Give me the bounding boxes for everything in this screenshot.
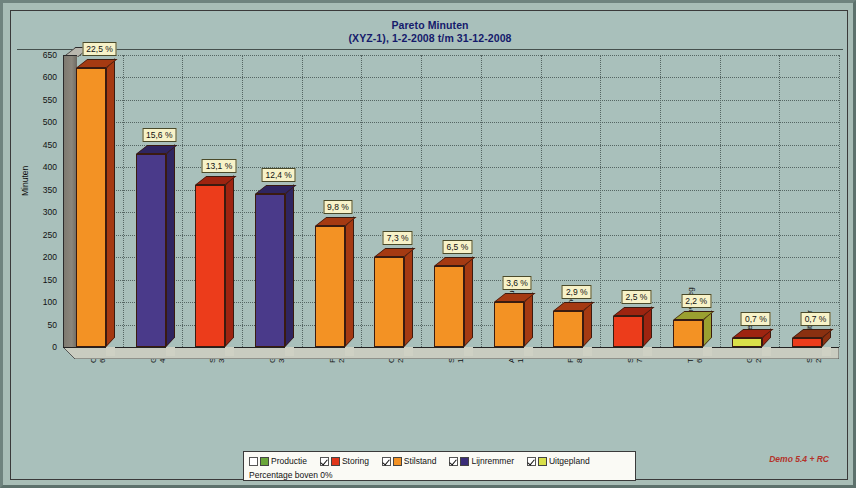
gridline-vertical: [361, 55, 362, 347]
legend-checkbox[interactable]: [249, 457, 258, 466]
gridline-vertical: [481, 55, 482, 347]
legend-color-swatch: [393, 457, 402, 466]
y-axis-tick-label: 200: [43, 252, 57, 262]
plot-area: 0501001502002503003504004505005506006502…: [63, 55, 839, 347]
y-axis-tick-label: 350: [43, 185, 57, 195]
gridline-vertical: [779, 55, 780, 347]
gridline-horizontal: [63, 190, 839, 191]
gridline-vertical: [541, 55, 542, 347]
bar-shadow: [762, 347, 771, 356]
gridline-horizontal: [63, 145, 839, 146]
y-axis-tick-label: 100: [43, 297, 57, 307]
bar-shadow: [225, 347, 234, 356]
legend-color-swatch: [538, 457, 547, 466]
legend-note: Percentage boven 0%: [249, 470, 630, 480]
legend-label: Uitgepland: [549, 456, 590, 466]
bar-shadow: [106, 347, 115, 356]
y-axis-title: Minuten: [20, 166, 30, 196]
gridline-horizontal: [63, 235, 839, 236]
bar[interactable]: [673, 320, 703, 347]
bar[interactable]: [792, 338, 822, 347]
y-axis-tick-label: 600: [43, 72, 57, 82]
bar-front-face: [613, 316, 643, 347]
bar-value-label: 9,8 %: [323, 200, 353, 214]
gridline-horizontal: [63, 77, 839, 78]
bar[interactable]: [434, 266, 464, 347]
bar-front-face: [434, 266, 464, 347]
gridline-horizontal: [63, 55, 839, 56]
gridline-vertical: [839, 55, 840, 347]
bar[interactable]: [613, 316, 643, 347]
bar[interactable]: [255, 194, 285, 347]
gridline-vertical: [720, 55, 721, 347]
y-axis-tick-label: 450: [43, 140, 57, 150]
bar-value-label: 15,6 %: [142, 128, 176, 142]
bar-side-face: [345, 216, 354, 347]
legend-color-swatch: [460, 457, 469, 466]
gridline-vertical: [302, 55, 303, 347]
bar-front-face: [195, 185, 225, 347]
bar-side-face: [285, 185, 294, 347]
gridline-vertical: [242, 55, 243, 347]
bar-value-label: 2,2 %: [681, 294, 711, 308]
bar-side-face: [404, 248, 413, 347]
bar-value-label: 0,7 %: [741, 312, 771, 326]
bar-front-face: [76, 68, 106, 347]
y-axis-tick-label: 650: [43, 50, 57, 60]
bar-value-label: 12,4 %: [261, 168, 295, 182]
bar-shadow: [703, 347, 712, 356]
legend-color-swatch: [260, 457, 269, 466]
y-axis-tick-label: 400: [43, 162, 57, 172]
legend-item-storing[interactable]: Storing: [320, 456, 369, 466]
legend-item-lijnremmer[interactable]: Lijnremmer: [449, 456, 514, 466]
bar-shadow: [464, 347, 473, 356]
bar-front-face: [374, 257, 404, 347]
legend-checkbox[interactable]: [320, 457, 329, 466]
bar[interactable]: [553, 311, 583, 347]
legend-label: Stilstand: [404, 456, 437, 466]
bar-value-label: 13,1 %: [202, 159, 236, 173]
bar[interactable]: [732, 338, 762, 347]
legend-checkbox[interactable]: [382, 457, 391, 466]
bar[interactable]: [315, 226, 345, 347]
bar-value-label: 3,6 %: [502, 276, 532, 290]
y-axis-tick-label: 0: [52, 342, 57, 352]
x-axis-baseline: [63, 347, 839, 348]
bar-shadow: [583, 347, 592, 356]
bar-value-label: 6,5 %: [443, 240, 473, 254]
bar-front-face: [315, 226, 345, 347]
legend-color-swatch: [331, 457, 340, 466]
legend-checkbox[interactable]: [527, 457, 536, 466]
demo-watermark: Demo 5.4 + RC: [769, 454, 829, 464]
bar[interactable]: [136, 154, 166, 347]
bar[interactable]: [76, 68, 106, 347]
bar[interactable]: [195, 185, 225, 347]
bar-shadow: [166, 347, 175, 356]
bar-front-face: [673, 320, 703, 347]
chart-floor-shape: [63, 347, 839, 359]
chart-title-line1: Pareto Minuten: [11, 19, 849, 32]
chart-floor: [63, 347, 839, 359]
legend-item-stilstand[interactable]: Stilstand: [382, 456, 437, 466]
bar-value-label: 0,7 %: [801, 312, 831, 326]
bar-side-face: [166, 144, 175, 347]
legend-label: Lijnremmer: [471, 456, 514, 466]
gridline-horizontal: [63, 212, 839, 213]
legend-label: Storing: [342, 456, 369, 466]
bar-value-label: 2,5 %: [622, 290, 652, 304]
gridline-vertical: [421, 55, 422, 347]
bar[interactable]: [494, 302, 524, 347]
bar-value-label: 2,9 %: [562, 285, 592, 299]
bar[interactable]: [374, 257, 404, 347]
y-axis-tick-label: 250: [43, 230, 57, 240]
bar-side-face: [225, 176, 234, 347]
legend-checkbox[interactable]: [449, 457, 458, 466]
chart-window: Pareto Minuten (XYZ-1), 1-2-2008 t/m 31-…: [0, 0, 856, 488]
bar-front-face: [792, 338, 822, 347]
bar-shadow: [404, 347, 413, 356]
legend-item-productie[interactable]: Productie: [249, 456, 307, 466]
legend-label: Productie: [271, 456, 307, 466]
bar-front-face: [136, 154, 166, 347]
legend-item-uitgepland[interactable]: Uitgepland: [527, 456, 590, 466]
bar-front-face: [255, 194, 285, 347]
